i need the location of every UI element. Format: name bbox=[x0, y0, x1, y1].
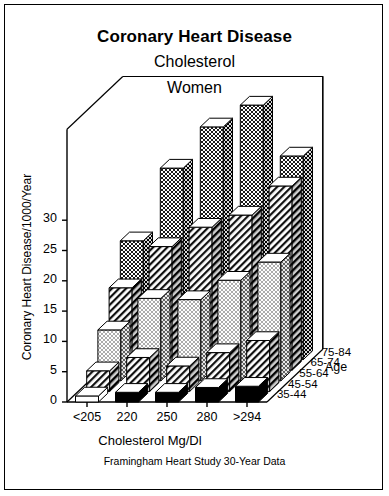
x-axis-tick-label: <205 bbox=[65, 410, 109, 424]
z-axis-tick-label-65-74: 65-74 bbox=[311, 356, 340, 368]
y-axis-tick-label: 0 bbox=[31, 393, 57, 407]
z-axis-tick-label-55-64: 55-64 bbox=[299, 367, 328, 379]
y-axis-tick-label: 30 bbox=[31, 211, 57, 225]
y-axis-tick-label: 5 bbox=[31, 363, 57, 377]
bar-35-44->294 bbox=[236, 378, 268, 402]
y-axis-tick-label: 15 bbox=[31, 302, 57, 316]
x-axis-tick-label: >294 bbox=[225, 410, 269, 424]
x-axis-tick-label: 280 bbox=[185, 410, 229, 424]
x-axis-tick-label: 250 bbox=[145, 410, 189, 424]
bar-35-44-280 bbox=[196, 379, 228, 402]
chart-footnote: Framingham Heart Study 30-Year Data bbox=[5, 455, 384, 467]
z-axis-tick-label-35-44: 35-44 bbox=[277, 388, 306, 400]
y-axis-tick-label: 20 bbox=[31, 272, 57, 286]
x-axis-tick-label: 220 bbox=[105, 410, 149, 424]
plot-wall-diagonal-top bbox=[67, 77, 123, 130]
y-axis-tick-label: 25 bbox=[31, 242, 57, 256]
z-axis-tick-label-45-54: 45-54 bbox=[288, 378, 317, 390]
chart-frame: Coronary Heart Disease Cholesterol Women bbox=[4, 4, 383, 490]
bar-35-44-250 bbox=[156, 384, 188, 402]
x-axis-label: Cholesterol Mg/Dl bbox=[5, 433, 295, 448]
bar-35-44-220 bbox=[116, 384, 148, 402]
y-axis-tick-label: 10 bbox=[31, 332, 57, 346]
z-axis-tick-label-75-84: 75-84 bbox=[322, 346, 351, 358]
